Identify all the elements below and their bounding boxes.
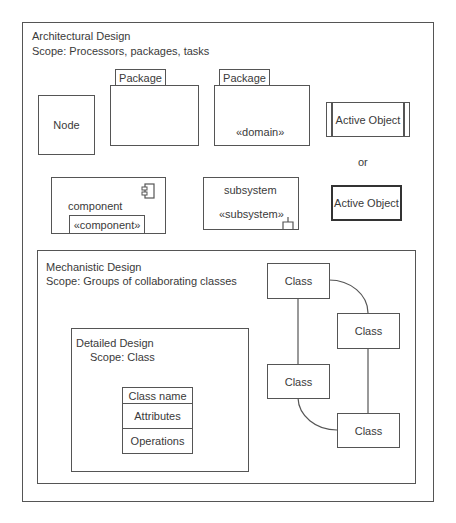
- attributes-label: Attributes: [134, 410, 180, 422]
- class-compartments: Class name Attributes Operations: [122, 387, 193, 454]
- package1-body: [110, 85, 199, 146]
- active-object2-label: Active Object: [334, 197, 399, 209]
- class-label: Class: [355, 425, 383, 437]
- class-name: Class name: [128, 390, 186, 402]
- architectural-scope: Scope: Processors, packages, tasks: [32, 45, 209, 57]
- active-object-left-bar: [331, 102, 333, 137]
- class-name-compartment: Class name: [122, 387, 193, 404]
- mechanistic-title: Mechanistic Design: [46, 261, 141, 273]
- active-object-thick: Active Object: [331, 185, 402, 221]
- architectural-title: Architectural Design: [32, 30, 130, 42]
- mechanistic-scope: Scope: Groups of collaborating classes: [46, 275, 237, 287]
- package2-tab: Package: [219, 69, 270, 86]
- operations-label: Operations: [131, 435, 185, 447]
- class-box-3: Class: [267, 364, 330, 399]
- active-object1-label: Active Object: [336, 114, 401, 126]
- subsystem-label: subsystem: [224, 184, 277, 196]
- active-object-bars: Active Object: [326, 102, 410, 137]
- attributes-compartment: Attributes: [122, 403, 193, 429]
- class-box-2: Class: [337, 313, 400, 349]
- class-box-4: Class: [337, 413, 400, 448]
- component-label: component: [68, 200, 122, 212]
- component-stereotype: «component»: [74, 219, 141, 231]
- class-label: Class: [355, 325, 383, 337]
- class-label: Class: [285, 376, 313, 388]
- node-box: Node: [38, 95, 95, 155]
- node-label: Node: [53, 119, 79, 131]
- detailed-title: Detailed Design: [76, 337, 154, 349]
- class-box-1: Class: [267, 263, 330, 299]
- package1-tab-label: Package: [119, 72, 162, 84]
- component-stereotype-box: «component»: [69, 215, 145, 234]
- class-label: Class: [285, 275, 313, 287]
- package2-stereotype: «domain»: [236, 126, 284, 138]
- operations-compartment: Operations: [122, 428, 193, 454]
- or-label: or: [358, 156, 368, 168]
- subsystem-stereotype: «subsystem»: [219, 208, 284, 220]
- package2-tab-label: Package: [223, 72, 266, 84]
- detailed-scope: Scope: Class: [90, 351, 155, 363]
- package1-tab: Package: [115, 69, 166, 86]
- active-object-right-bar: [403, 102, 405, 137]
